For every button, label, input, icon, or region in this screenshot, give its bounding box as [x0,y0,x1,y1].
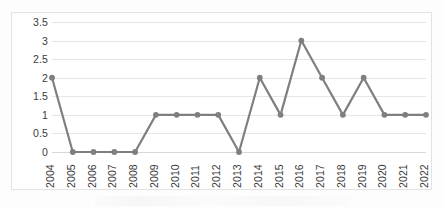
plot-area [52,22,426,152]
series-line [52,22,426,152]
data-point-marker[interactable] [215,112,221,118]
data-point-marker[interactable] [278,112,284,118]
data-point-marker[interactable] [298,38,304,44]
x-tick-label: 2012 [210,164,222,188]
x-tick-label: 2019 [356,164,368,188]
x-tick-label: 2020 [376,164,388,188]
x-tick-label: 2015 [273,164,285,188]
data-point-marker[interactable] [402,112,408,118]
x-tick-label: 2013 [231,164,243,188]
data-point-marker[interactable] [174,112,180,118]
y-tick-label: 1.5 [33,90,48,102]
data-point-marker[interactable] [361,75,367,81]
data-point-marker[interactable] [195,112,201,118]
data-point-marker[interactable] [49,75,55,81]
data-point-marker[interactable] [423,112,429,118]
y-axis: 00.511.522.533.5 [14,18,48,160]
x-tick-label: 2016 [293,164,305,188]
y-tick-label: 2.5 [33,53,48,65]
x-tick-label: 2011 [189,165,201,188]
y-tick-label: 2 [42,72,48,84]
data-point-marker[interactable] [340,112,346,118]
x-axis: 2004200520062007200820092010201120122013… [52,154,426,188]
x-tick-label: 2009 [148,164,160,188]
data-point-marker[interactable] [257,75,263,81]
x-tick-label: 2022 [418,164,430,188]
series-polyline [52,41,426,152]
y-tick-label: 3 [42,35,48,47]
y-tick-label: 0.5 [33,127,48,139]
x-tick-label: 2018 [335,164,347,188]
x-tick-label: 2021 [397,164,409,188]
data-point-marker[interactable] [153,112,159,118]
x-tick-label: 2014 [252,164,264,188]
scan-artifact-caption [95,196,350,206]
x-tick-label: 2006 [86,164,98,188]
x-tick-label: 2004 [44,164,56,188]
line-chart-figure: 00.511.522.533.5 20042005200620072008200… [0,0,443,208]
data-point-marker[interactable] [382,112,388,118]
data-point-marker[interactable] [319,75,325,81]
x-tick-label: 2008 [127,164,139,188]
x-tick-label: 2017 [314,164,326,188]
x-tick-label: 2005 [65,164,77,188]
x-tick-label: 2010 [169,164,181,188]
y-tick-label: 3.5 [33,16,48,28]
y-tick-label: 1 [42,109,48,121]
x-tick-label: 2007 [106,164,118,188]
y-tick-label: 0 [42,146,48,158]
